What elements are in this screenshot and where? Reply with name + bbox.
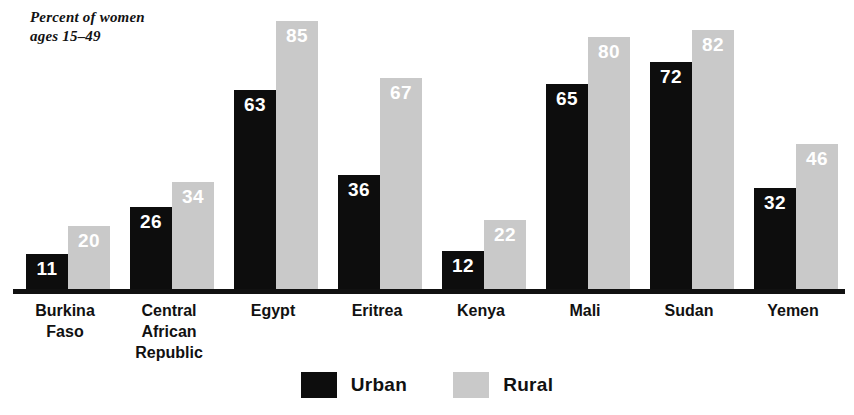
bar-rural: 85: [276, 21, 318, 289]
bar-value-label: 12: [442, 255, 484, 277]
bar-urban: 11: [26, 254, 68, 289]
bar-value-label: 32: [754, 192, 796, 214]
bar-value-label: 72: [650, 66, 692, 88]
bar-urban: 63: [234, 90, 276, 289]
legend-label: Urban: [351, 374, 407, 396]
legend-item-urban: Urban: [301, 372, 407, 398]
legend-label: Rural: [503, 374, 553, 396]
bar-value-label: 80: [588, 41, 630, 63]
legend-swatch-rural-icon: [453, 372, 489, 398]
bar-urban: 36: [338, 175, 380, 289]
bar-urban: 32: [754, 188, 796, 289]
bar-urban: 26: [130, 207, 172, 289]
category-label: Central African Republic: [117, 300, 221, 363]
bar-group: 3246: [741, 5, 845, 289]
legend-item-rural: Rural: [453, 372, 553, 398]
bar-value-label: 65: [546, 88, 588, 110]
bar-rural: 82: [692, 30, 734, 289]
category-label: Kenya: [429, 300, 533, 321]
category-label: Yemen: [741, 300, 845, 321]
bar-rural: 34: [172, 182, 214, 289]
bar-value-label: 82: [692, 34, 734, 56]
category-label: Sudan: [637, 300, 741, 321]
bar-rural: 67: [380, 78, 422, 289]
bar-value-label: 26: [130, 211, 172, 233]
bar-chart: Percent of women ages 15–49 112026346385…: [0, 0, 854, 415]
bar-rural: 22: [484, 220, 526, 289]
bar-group: 2634: [117, 5, 221, 289]
plot-area: 11202634638536671222658072823246: [13, 0, 845, 294]
bar-value-label: 67: [380, 82, 422, 104]
bar-group: 1120: [13, 5, 117, 289]
x-axis-line: [13, 289, 845, 294]
bar-value-label: 85: [276, 25, 318, 47]
bar-value-label: 36: [338, 179, 380, 201]
bar-value-label: 20: [68, 230, 110, 252]
category-label: Burkina Faso: [13, 300, 117, 342]
bar-value-label: 34: [172, 186, 214, 208]
legend-swatch-urban-icon: [301, 372, 337, 398]
category-label: Egypt: [221, 300, 325, 321]
bar-rural: 80: [588, 37, 630, 289]
category-label: Mali: [533, 300, 637, 321]
bar-rural: 46: [796, 144, 838, 289]
bar-group: 7282: [637, 5, 741, 289]
bar-value-label: 22: [484, 224, 526, 246]
bar-group: 1222: [429, 5, 533, 289]
bar-value-label: 46: [796, 148, 838, 170]
bar-urban: 72: [650, 62, 692, 289]
bar-urban: 65: [546, 84, 588, 289]
bar-value-label: 63: [234, 94, 276, 116]
chart-legend: UrbanRural: [0, 372, 854, 398]
bar-value-label: 11: [26, 258, 68, 280]
bar-rural: 20: [68, 226, 110, 289]
category-label: Eritrea: [325, 300, 429, 321]
bar-group: 6385: [221, 5, 325, 289]
bar-urban: 12: [442, 251, 484, 289]
bar-group: 3667: [325, 5, 429, 289]
bar-group: 6580: [533, 5, 637, 289]
